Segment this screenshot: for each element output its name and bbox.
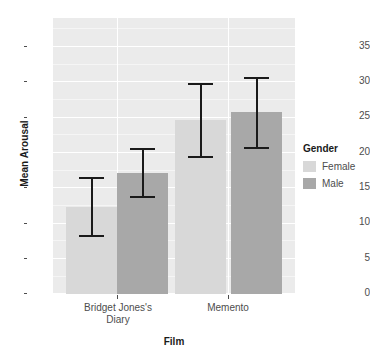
- y-tick-mark-20: [24, 152, 27, 153]
- legend-title: Gender: [303, 143, 367, 154]
- legend-swatch-female: [303, 161, 316, 172]
- errorbar-line-male-bridget: [142, 148, 144, 197]
- legend-item-female: Female: [303, 159, 367, 174]
- bar-chart: Mean Arousal 35 30 25 20 15 10 5 0: [0, 0, 370, 359]
- y-tick-mark-5: [24, 258, 27, 259]
- gridline-minor-37: [53, 28, 295, 29]
- y-tick-label-10: 10: [348, 217, 370, 227]
- x-tick-label-line2: Diary: [58, 314, 178, 326]
- y-tick-label-5: 5: [348, 253, 370, 263]
- y-tick-mark-35: [24, 46, 27, 47]
- errorbar-line-female-bridget: [91, 177, 93, 236]
- x-tick-label-bridget-jones-diary: Bridget Jones's Diary: [58, 302, 178, 326]
- errorbar-cap-bottom-male-bridget: [130, 196, 155, 198]
- plot-panel: [53, 18, 295, 294]
- gridline-x-memento: [228, 18, 229, 294]
- errorbar-line-male-memento: [256, 77, 258, 148]
- y-tick-mark-30: [24, 81, 27, 82]
- legend-swatch-male: [303, 178, 316, 189]
- y-tick-label-25: 25: [348, 111, 370, 121]
- legend-label-male: Male: [322, 178, 344, 189]
- errorbar-cap-top-female-bridget: [79, 177, 104, 179]
- errorbar-cap-top-male-bridget: [130, 148, 155, 150]
- gridline-y-35: [53, 46, 295, 47]
- x-tick-label-line1: Memento: [168, 302, 288, 314]
- errorbar-line-female-memento: [200, 83, 202, 157]
- y-tick-mark-25: [24, 117, 27, 118]
- x-tick-label-line1: Bridget Jones's: [58, 302, 178, 314]
- errorbar-cap-top-male-memento: [244, 77, 269, 79]
- gridline-y-30: [53, 81, 295, 82]
- legend-item-male: Male: [303, 176, 367, 191]
- errorbar-cap-bottom-female-bridget: [79, 235, 104, 237]
- gridline-minor-32: [53, 64, 295, 65]
- x-tick-mark-memento: [228, 295, 229, 299]
- y-tick-label-30: 30: [348, 76, 370, 86]
- y-tick-label-35: 35: [348, 41, 370, 51]
- gridline-minor-27: [53, 99, 295, 100]
- y-tick-mark-0: [24, 293, 27, 294]
- y-tick-mark-15: [24, 187, 27, 188]
- legend-label-female: Female: [322, 161, 355, 172]
- errorbar-cap-top-female-memento: [188, 83, 213, 85]
- x-tick-label-memento: Memento: [168, 302, 288, 314]
- x-axis-title: Film: [53, 336, 295, 347]
- x-tick-mark-bridget-jones-diary: [117, 295, 118, 299]
- errorbar-cap-bottom-male-memento: [244, 147, 269, 149]
- legend: Gender Female Male: [303, 143, 367, 193]
- y-tick-mark-10: [24, 223, 27, 224]
- y-axis-title: Mean Arousal: [19, 94, 30, 214]
- y-tick-label-0: 0: [348, 288, 370, 298]
- errorbar-cap-bottom-female-memento: [188, 156, 213, 158]
